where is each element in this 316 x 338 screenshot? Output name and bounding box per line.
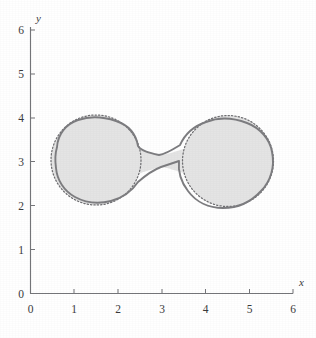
x-tick-label-0: 0 <box>28 303 34 315</box>
x-axis-label: x <box>298 276 304 288</box>
y-tick-label-6: 6 <box>18 24 24 36</box>
x-tick-labels: 0 1 2 3 4 5 6 <box>28 303 297 315</box>
x-tick-marks <box>74 289 293 294</box>
y-tick-marks <box>31 30 36 250</box>
x-tick-label-4: 4 <box>203 303 209 315</box>
x-tick-label-5: 5 <box>247 303 253 315</box>
figure-container: 6 5 4 3 2 1 0 0 1 2 3 4 5 6 y x <box>0 0 316 338</box>
y-tick-label-4: 4 <box>18 112 24 124</box>
x-tick-label-3: 3 <box>159 303 165 315</box>
y-tick-label-1: 1 <box>18 244 24 256</box>
x-tick-label-2: 2 <box>115 303 121 315</box>
x-tick-label-6: 6 <box>290 303 296 315</box>
y-tick-label-0: 0 <box>18 288 24 300</box>
x-tick-label-1: 1 <box>71 303 77 315</box>
y-axis-label: y <box>35 12 41 24</box>
y-tick-labels: 6 5 4 3 2 1 0 <box>18 24 24 300</box>
shaded-region-group <box>51 115 274 207</box>
y-tick-label-3: 3 <box>18 156 24 168</box>
plot-svg: 6 5 4 3 2 1 0 0 1 2 3 4 5 6 y x <box>0 0 316 338</box>
y-tick-label-2: 2 <box>18 200 24 212</box>
y-tick-label-5: 5 <box>18 68 24 80</box>
